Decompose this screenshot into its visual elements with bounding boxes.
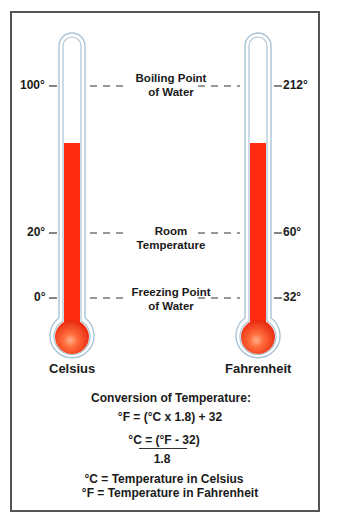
boiling-point-line1: Boiling Point bbox=[110, 71, 232, 85]
fraction-bar bbox=[139, 448, 187, 449]
fahrenheit-tick-212: 212° bbox=[283, 78, 308, 92]
room-temperature-line2: Temperature bbox=[110, 238, 232, 252]
formula-celsius-numerator: °C = (°F - 32) bbox=[0, 433, 335, 447]
celsius-label: Celsius bbox=[49, 361, 95, 376]
room-temperature-label: Room Temperature bbox=[110, 224, 232, 252]
legend-celsius: °C = Temperature in Celsius bbox=[0, 472, 335, 486]
celsius-tick-20: 20° bbox=[27, 225, 45, 239]
bulb bbox=[241, 320, 275, 354]
celsius-thermometer-icon bbox=[50, 33, 94, 358]
freezing-point-line2: of Water bbox=[110, 299, 232, 313]
fahrenheit-tick-32: 32° bbox=[283, 290, 301, 304]
fahrenheit-thermometer-icon bbox=[236, 33, 280, 358]
freezing-point-label: Freezing Point of Water bbox=[110, 285, 232, 313]
celsius-tick-0: 0° bbox=[34, 290, 45, 304]
fahrenheit-ticks bbox=[274, 86, 282, 298]
celsius-ticks bbox=[49, 86, 57, 298]
formula-celsius-denominator: 1.8 bbox=[0, 452, 333, 466]
boiling-point-label: Boiling Point of Water bbox=[110, 71, 232, 99]
legend-fahrenheit: °F = Temperature in Fahrenheit bbox=[0, 486, 341, 500]
fahrenheit-tick-60: 60° bbox=[283, 225, 301, 239]
reference-dashes bbox=[90, 86, 240, 298]
bulb bbox=[55, 320, 89, 354]
formula-fahrenheit: °F = (°C x 1.8) + 32 bbox=[0, 410, 341, 424]
freezing-point-line1: Freezing Point bbox=[110, 285, 232, 299]
fahrenheit-label: Fahrenheit bbox=[225, 361, 291, 376]
conversion-title: Conversion of Temperature: bbox=[0, 391, 342, 405]
boiling-point-line2: of Water bbox=[110, 85, 232, 99]
mercury-column bbox=[250, 143, 266, 329]
celsius-tick-100: 100° bbox=[20, 78, 45, 92]
room-temperature-line1: Room bbox=[110, 224, 232, 238]
mercury-column bbox=[64, 143, 80, 329]
